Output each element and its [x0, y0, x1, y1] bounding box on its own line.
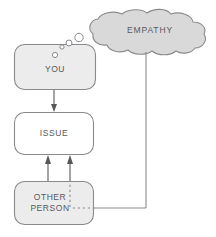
- empathy-flow-diagram: EMPATHY YOU ISSUE: [0, 0, 216, 237]
- node-empathy-label: EMPATHY: [127, 25, 173, 35]
- connector-other-person-to-issue-dashed: [67, 155, 73, 181]
- node-other-person-label-line1: OTHER: [34, 192, 67, 202]
- node-you[interactable]: YOU: [15, 45, 96, 90]
- diagram-canvas: EMPATHY YOU ISSUE: [0, 0, 216, 237]
- thought-bubble-icon-1: [52, 52, 57, 57]
- connector-you-to-issue: [51, 90, 57, 112]
- node-you-label: YOU: [45, 64, 65, 74]
- thought-bubble-icon-2: [60, 45, 64, 49]
- thought-bubble-icon-4: [75, 33, 83, 41]
- node-issue[interactable]: ISSUE: [15, 113, 94, 155]
- node-other-person-label-line2: PERSON: [30, 203, 69, 213]
- node-other-person[interactable]: OTHER PERSON: [15, 182, 94, 225]
- node-empathy[interactable]: EMPATHY: [90, 9, 206, 54]
- thought-bubble-icon-3: [66, 40, 72, 46]
- node-issue-label: ISSUE: [40, 128, 68, 138]
- connector-other-person-to-issue-solid: [45, 155, 51, 181]
